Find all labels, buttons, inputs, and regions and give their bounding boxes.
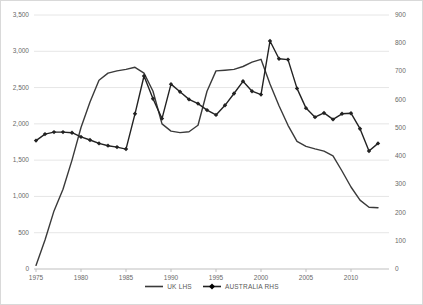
left-axis-tick-label: 3,500 xyxy=(13,11,30,18)
australia-line-sample-icon xyxy=(202,282,222,291)
legend-label-uk: UK LHS xyxy=(167,283,192,290)
x-axis-tick-label: 1990 xyxy=(164,274,179,281)
right-axis-tick-label: 400 xyxy=(395,152,406,159)
diamond-marker-icon xyxy=(106,143,110,147)
series-path xyxy=(36,59,378,265)
series-uk-line xyxy=(36,59,378,265)
x-axis-tick-label: 2000 xyxy=(254,274,269,281)
left-axis-tick-label: 1,000 xyxy=(13,192,30,199)
right-axis-tick-label: 800 xyxy=(395,39,406,46)
diamond-marker-icon xyxy=(97,141,101,145)
legend: UK LHS AUSTRALIA RHS xyxy=(1,282,422,291)
right-axis-labels: 9008007006005004003002001000 xyxy=(395,11,406,272)
left-axis-tick-label: 2,500 xyxy=(13,84,30,91)
left-axis-tick-label: 0 xyxy=(25,265,29,272)
left-axis-labels: 3,5003,0002,5002,0001,5001,0005000 xyxy=(13,11,30,272)
diamond-marker-icon xyxy=(124,147,128,151)
diamond-marker-icon xyxy=(52,130,56,134)
series-australia-line xyxy=(34,39,380,153)
legend-item-australia: AUSTRALIA RHS xyxy=(202,282,279,291)
right-axis-tick-label: 200 xyxy=(395,209,406,216)
x-axis-labels: 19751980198519901995200020052010 xyxy=(29,274,359,281)
x-axis-tick-label: 1980 xyxy=(74,274,89,281)
left-axis-tick-label: 2,000 xyxy=(13,120,30,127)
diamond-marker-icon xyxy=(259,92,263,96)
diamond-marker-icon xyxy=(88,138,92,142)
diamond-marker-icon xyxy=(70,130,74,134)
diamond-marker-icon xyxy=(209,284,215,290)
right-axis-tick-label: 900 xyxy=(395,11,406,18)
x-axis-tick-label: 2010 xyxy=(344,274,359,281)
uk-line-sample-icon xyxy=(144,283,164,290)
right-axis-tick-label: 600 xyxy=(395,96,406,103)
right-axis-tick-label: 0 xyxy=(395,265,399,272)
left-axis-tick-label: 500 xyxy=(18,229,29,236)
right-axis-tick-label: 700 xyxy=(395,67,406,74)
right-axis-tick-label: 100 xyxy=(395,237,406,244)
chart-svg: 3,5003,0002,5002,0001,5001,0005000 90080… xyxy=(1,1,423,305)
diamond-marker-icon xyxy=(115,145,119,149)
right-axis-tick-label: 300 xyxy=(395,180,406,187)
diamond-marker-icon xyxy=(295,86,299,90)
gridlines xyxy=(34,15,389,269)
right-axis-tick-label: 500 xyxy=(395,124,406,131)
x-axis-tick-label: 1995 xyxy=(209,274,224,281)
diamond-marker-icon xyxy=(286,57,290,61)
legend-label-australia: AUSTRALIA RHS xyxy=(225,283,279,290)
diamond-marker-icon xyxy=(133,112,137,116)
series-path xyxy=(36,41,378,151)
left-axis-tick-label: 1,500 xyxy=(13,156,30,163)
x-axis-tick-label: 2005 xyxy=(299,274,314,281)
diamond-marker-icon xyxy=(61,130,65,134)
x-axis-tick-label: 1985 xyxy=(119,274,134,281)
legend-item-uk: UK LHS xyxy=(144,283,192,290)
left-axis-tick-label: 3,000 xyxy=(13,47,30,54)
x-axis-tick-label: 1975 xyxy=(29,274,44,281)
line-chart: 3,5003,0002,5002,0001,5001,0005000 90080… xyxy=(0,0,423,305)
